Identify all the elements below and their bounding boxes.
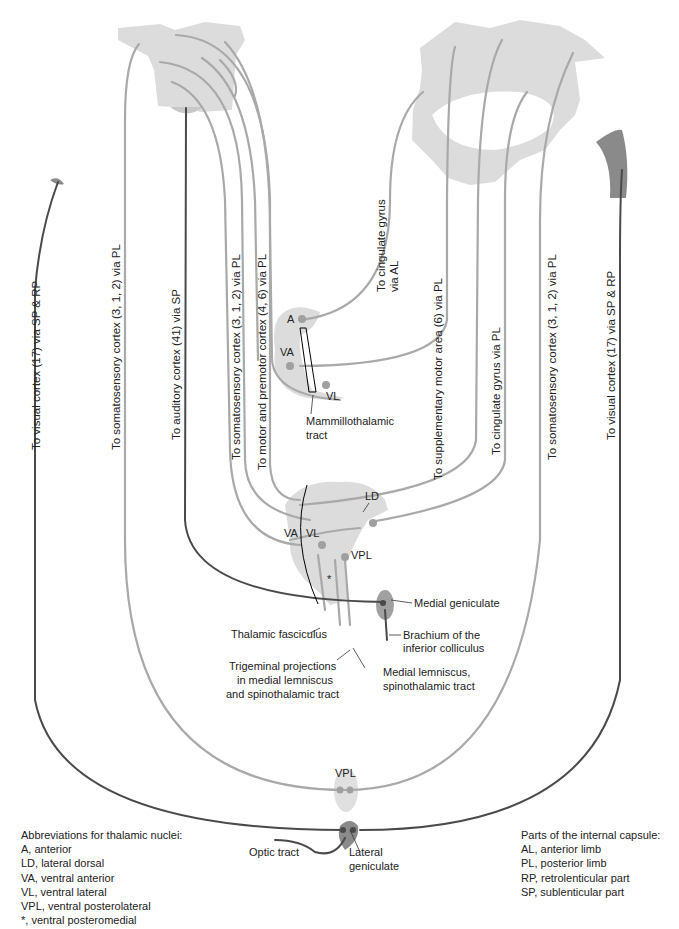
nucleus-dot-vl-mid xyxy=(318,541,326,549)
label-auditory: To auditory cortex (41) via SP xyxy=(170,289,182,440)
label-medial-geniculate: Medial geniculate xyxy=(414,597,500,609)
label-medial-lemniscus-1: Medial lemniscus, xyxy=(383,666,470,678)
label-lateral-geniculate-1: Lateral xyxy=(349,846,383,858)
label-nucleus-ld: LD xyxy=(365,490,379,502)
label-nucleus-vl-upper: VL xyxy=(326,390,339,402)
legend-nuclei-item: VPL, ventral posterolateral xyxy=(21,899,182,913)
label-cingulate-al-1: To cingulate gyrus xyxy=(375,199,387,292)
label-brachium-1: Brachium of the xyxy=(403,629,480,641)
legend-nuclei-item: LD, lateral dorsal xyxy=(21,856,182,870)
label-nucleus-vpl-lower: VPL xyxy=(335,767,356,779)
label-motor-premotor: To motor and premotor cortex (4, 6) via … xyxy=(256,253,268,470)
label-optic-tract: Optic tract xyxy=(249,846,299,858)
nucleus-dot-a xyxy=(298,315,306,323)
legend-capsule-item: RP, retrolenticular part xyxy=(521,871,660,885)
legend-capsule-item: PL, posterior limb xyxy=(521,856,660,870)
label-visual-right: To visual cortex (17) via SP & RP xyxy=(605,271,617,440)
legend-capsule-item: AL, anterior limb xyxy=(521,842,660,856)
label-visual-left: To visual cortex (17) via SP & RP xyxy=(30,281,42,450)
nucleus-dot-lgn-1 xyxy=(340,827,346,833)
leader-trigeminal xyxy=(337,650,350,660)
label-mammillothalamic-2: tract xyxy=(306,429,327,441)
label-lateral-geniculate-2: geniculate xyxy=(349,860,399,872)
nucleus-dot-medial-geniculate xyxy=(380,600,386,606)
label-nucleus-va-upper: VA xyxy=(280,346,295,358)
legend-capsule-title: Parts of the internal capsule: xyxy=(521,828,660,842)
label-thalamic-fasciculus: Thalamic fasciculus xyxy=(231,628,327,640)
legend-nuclei-item: VL, ventral lateral xyxy=(21,885,182,899)
label-nucleus-va-mid: VA xyxy=(284,527,299,539)
label-supplementary-motor: To supplementary motor area (6) via PL xyxy=(432,277,444,480)
label-medial-lemniscus-2: spinothalamic tract xyxy=(383,680,475,692)
label-cingulate-pl: To cingulate gyrus via PL xyxy=(490,327,502,455)
label-somatosensory-left: To somatosensory cortex (3, 1, 2) via PL xyxy=(110,244,122,450)
label-nucleus-vl-mid: VL xyxy=(306,527,319,539)
nucleus-dot-vpl-lower-1 xyxy=(337,787,344,794)
label-trigeminal-1: Trigeminal projections xyxy=(229,660,337,672)
label-somatosensory-right: To somatosensory cortex (3, 1, 2) via PL xyxy=(546,254,558,460)
label-mammillothalamic-1: Mammillothalamic xyxy=(306,415,395,427)
label-trigeminal-3: and spinothalamic tract xyxy=(226,688,339,700)
label-brachium-2: inferior colliculus xyxy=(403,642,485,654)
tract-cingulate-al xyxy=(300,92,423,320)
label-nucleus-vpl-mid: VPL xyxy=(351,549,372,561)
legend-nuclei-item: VA, ventral anterior xyxy=(21,871,182,885)
legend-internal-capsule: Parts of the internal capsule: AL, anter… xyxy=(521,828,660,899)
legend-thalamic-nuclei: Abbreviations for thalamic nuclei: A, an… xyxy=(21,828,182,927)
nucleus-dot-ld xyxy=(369,519,377,527)
nucleus-dot-vpl-lower-2 xyxy=(347,787,354,794)
legend-nuclei-title: Abbreviations for thalamic nuclei: xyxy=(21,828,182,842)
thalamocortical-projections-diagram: * To visual cortex (17) via SP & RP To s… xyxy=(0,0,679,929)
label-nucleus-a: A xyxy=(287,313,295,325)
nucleus-dot-va-upper xyxy=(286,362,294,370)
nucleus-dot-vl-upper xyxy=(322,381,330,389)
leader-medial-geniculate xyxy=(391,600,412,603)
label-trigeminal-2: in medial lemniscus xyxy=(237,674,333,686)
label-somatosensory-mid: To somatosensory cortex (3, 1, 2) via PL xyxy=(230,254,242,460)
legend-capsule-item: SP, sublenticular part xyxy=(521,885,660,899)
nucleus-dot-vpl-mid xyxy=(341,553,349,561)
legend-nuclei-item: A, anterior xyxy=(21,842,182,856)
label-cingulate-al-2: via AL xyxy=(388,260,400,292)
leader-medial-lemniscus xyxy=(353,648,365,668)
visual-cortex-region-right xyxy=(596,130,627,198)
vpm-asterisk: * xyxy=(327,573,332,585)
legend-nuclei-item: *, ventral posteromedial xyxy=(21,913,182,927)
